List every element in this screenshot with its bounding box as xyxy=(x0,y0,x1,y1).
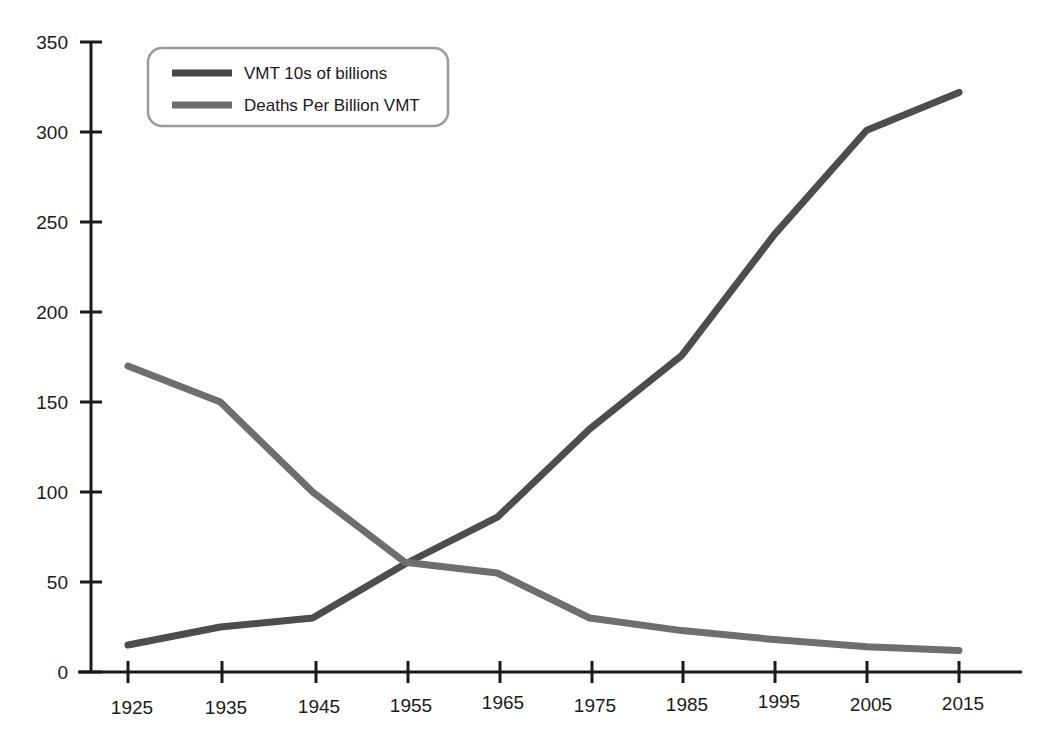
y-tick-label-300: 300 xyxy=(36,122,68,143)
legend-label-deaths: Deaths Per Billion VMT xyxy=(244,96,420,115)
x-tick-label-1945: 1945 xyxy=(298,696,340,717)
x-tick-label-2015: 2015 xyxy=(942,693,984,714)
x-tick-label-1925: 1925 xyxy=(111,697,153,718)
x-tick-label-1965: 1965 xyxy=(482,692,524,713)
y-tick-label-50: 50 xyxy=(47,572,68,593)
x-tick-label-1975: 1975 xyxy=(574,695,616,716)
y-tick-label-150: 150 xyxy=(36,392,68,413)
y-tick-label-250: 250 xyxy=(36,212,68,233)
legend: VMT 10s of billions Deaths Per Billion V… xyxy=(148,48,448,126)
y-tick-label-350: 350 xyxy=(36,32,68,53)
x-tick-label-1955: 1955 xyxy=(390,695,432,716)
line-chart: 350 300 250 200 150 100 50 0 xyxy=(0,0,1040,734)
x-tick-label-1985: 1985 xyxy=(666,694,708,715)
y-tick-label-0: 0 xyxy=(57,662,68,683)
x-tick-label-1935: 1935 xyxy=(205,697,247,718)
legend-label-vmt: VMT 10s of billions xyxy=(244,64,387,83)
chart-container: 350 300 250 200 150 100 50 0 xyxy=(0,0,1040,734)
x-tick-label-2005: 2005 xyxy=(850,694,892,715)
x-tick-label-1995: 1995 xyxy=(758,691,800,712)
y-tick-label-200: 200 xyxy=(36,302,68,323)
y-tick-label-100: 100 xyxy=(36,482,68,503)
